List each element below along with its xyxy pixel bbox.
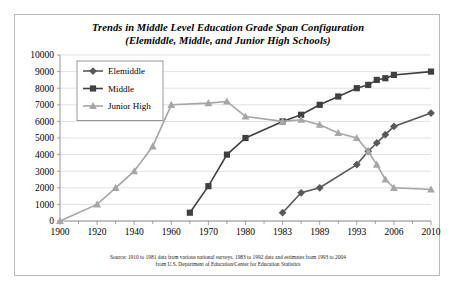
y-axis-tick-label: 2000 bbox=[35, 183, 54, 193]
y-axis-tick-label: 3000 bbox=[35, 167, 54, 177]
data-point-marker bbox=[427, 109, 435, 117]
x-axis-tick-label: 1900 bbox=[51, 227, 70, 237]
legend-label: Elemiddle bbox=[108, 66, 145, 76]
x-axis-labels-group: 1900192019401960197019801983198919932006… bbox=[51, 227, 441, 237]
chart-legend: ElemiddleMiddleJunior High bbox=[77, 61, 163, 121]
y-axis-labels-group: 0100020003000400050006000700080009000100… bbox=[30, 50, 54, 226]
data-point-marker bbox=[354, 85, 360, 91]
y-axis-tick-label: 4000 bbox=[35, 150, 54, 160]
data-point-marker bbox=[242, 135, 248, 141]
data-point-marker bbox=[205, 183, 211, 189]
y-axis-tick-label: 6000 bbox=[35, 117, 54, 127]
data-point-marker bbox=[317, 102, 323, 108]
data-point-marker bbox=[335, 93, 341, 99]
chart-title: Trends in Middle Level Education Grade S… bbox=[15, 21, 441, 47]
source-note-line-1: Source: 1910 to 1981 data from various n… bbox=[15, 254, 441, 262]
x-axis-tick-label: 1940 bbox=[125, 227, 144, 237]
data-point-marker bbox=[316, 184, 324, 192]
legend-marker bbox=[90, 85, 96, 91]
data-point-marker bbox=[391, 72, 397, 78]
x-axis-tick-label: 1980 bbox=[236, 227, 255, 237]
data-point-marker bbox=[187, 210, 193, 216]
y-axis-tick-label: 10000 bbox=[30, 50, 54, 60]
x-axis-tick-label: 2006 bbox=[384, 227, 403, 237]
data-point-marker bbox=[381, 175, 389, 182]
source-note-line-2: from U.S. Department of Education/Center… bbox=[15, 261, 441, 269]
data-point-marker bbox=[149, 142, 157, 149]
y-axis-tick-label: 5000 bbox=[35, 133, 54, 143]
data-point-marker bbox=[365, 82, 371, 88]
data-point-marker bbox=[374, 77, 380, 83]
chart-frame: Trends in Middle Level Education Grade S… bbox=[14, 14, 440, 276]
y-axis-tick-label: 7000 bbox=[35, 100, 54, 110]
source-note: Source: 1910 to 1981 data from various n… bbox=[15, 254, 441, 269]
line-chart-plot: 0100020003000400050006000700080009000100… bbox=[15, 49, 441, 245]
x-axis-tick-label: 1993 bbox=[347, 227, 366, 237]
data-point-marker bbox=[428, 69, 434, 75]
y-axis-tick-label: 9000 bbox=[35, 67, 54, 77]
y-axis-tick-label: 1000 bbox=[35, 200, 54, 210]
series-middle bbox=[187, 69, 434, 216]
data-point-marker bbox=[224, 152, 230, 158]
y-axis-tick-label: 8000 bbox=[35, 84, 54, 94]
x-axis-tick-label: 1960 bbox=[162, 227, 181, 237]
legend-label: Junior High bbox=[108, 101, 151, 111]
x-axis-tick-label: 2010 bbox=[422, 227, 441, 237]
x-axis-tick-label: 1983 bbox=[273, 227, 292, 237]
chart-title-line-1: Trends in Middle Level Education Grade S… bbox=[15, 21, 441, 34]
x-axis-tick-label: 1970 bbox=[199, 227, 218, 237]
legend-label: Middle bbox=[108, 84, 134, 94]
y-axis-tick-label: 0 bbox=[49, 216, 54, 226]
x-axis-tick-label: 1920 bbox=[88, 227, 107, 237]
x-axis-tick-label: 1989 bbox=[310, 227, 329, 237]
chart-title-line-2: (Elemiddle, Middle, and Junior High Scho… bbox=[15, 34, 441, 47]
data-point-marker bbox=[382, 75, 388, 81]
series-elemiddle bbox=[279, 109, 435, 216]
